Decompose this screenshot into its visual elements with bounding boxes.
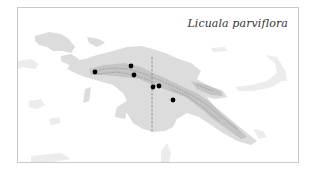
occurrence-point[interactable] xyxy=(157,84,162,89)
map-frame: Licuala parviflora xyxy=(17,7,299,163)
occurrence-point[interactable] xyxy=(93,70,98,75)
new-guinea-map xyxy=(18,8,299,163)
occurrence-point[interactable] xyxy=(171,98,176,103)
occurrence-point[interactable] xyxy=(132,73,137,78)
species-title: Licuala parviflora xyxy=(187,17,288,30)
occurrence-point[interactable] xyxy=(129,64,134,69)
occurrence-point[interactable] xyxy=(151,85,156,90)
